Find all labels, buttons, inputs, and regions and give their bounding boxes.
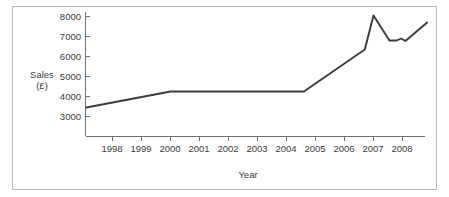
sales-line-chart: 8000 7000 6000 5000 4000 3000 1998 1999 … [0,0,449,197]
x-tick-label: 2006 [333,143,354,154]
y-tick-label: 8000 [60,11,81,22]
x-tick-label: 2000 [159,143,180,154]
y-tick-label: 6000 [60,51,81,62]
y-tick-label: 5000 [60,71,81,82]
x-axis-title: Year [238,169,257,180]
y-tick-labels: 8000 7000 6000 5000 4000 3000 [60,11,81,122]
y-tick-label: 4000 [60,91,81,102]
x-tick-label: 2007 [362,143,383,154]
y-tick-label: 7000 [60,31,81,42]
x-tick-label: 2005 [304,143,325,154]
x-tick-label: 2001 [188,143,209,154]
x-tick-label: 2002 [217,143,238,154]
y-axis-title-line1: Sales [30,69,54,80]
x-tick-marks [113,137,403,141]
sales-series-line [86,16,427,108]
x-tick-label: 1998 [101,143,122,154]
y-axis-title-line2: (£) [36,80,48,91]
x-tick-label: 1999 [130,143,151,154]
y-tick-label: 3000 [60,111,81,122]
y-tick-marks [86,17,90,117]
x-tick-labels: 1998 1999 2000 2001 2002 2003 2004 2005 … [101,143,412,154]
x-tick-label: 2008 [391,143,412,154]
x-tick-label: 2003 [246,143,267,154]
x-tick-label: 2004 [275,143,296,154]
